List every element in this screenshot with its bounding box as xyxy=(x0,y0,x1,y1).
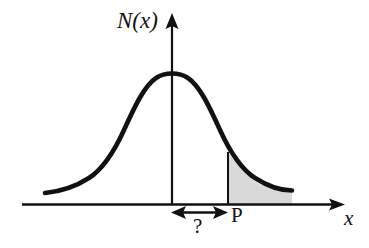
normal-distribution-figure: N(x) x P ? xyxy=(0,0,369,248)
x-axis-label: x xyxy=(344,208,353,229)
normal-curve xyxy=(45,74,292,194)
unknown-distance-label: ? xyxy=(193,216,202,237)
y-axis-label: N(x) xyxy=(117,9,158,32)
point-p-label: P xyxy=(231,205,243,226)
figure-canvas xyxy=(0,0,369,248)
